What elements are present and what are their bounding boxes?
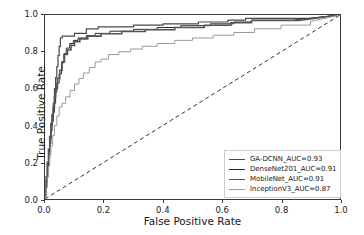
roc-curve-figure: 0.00.20.40.60.81.00.00.20.40.60.81.0 Fal… <box>0 0 364 235</box>
x-tick-mark <box>341 200 342 203</box>
x-tick-label: 0.4 <box>156 205 170 215</box>
y-tick-label: 1.0 <box>16 9 38 19</box>
legend-item-label: MobileNet_AUC=0.91 <box>250 175 324 183</box>
legend[interactable]: GA-DCNN_AUC=0.93DenseNet201_AUC=0.91Mobi… <box>224 150 341 198</box>
x-axis-label: False Positive Rate <box>44 215 341 227</box>
legend-item-mobilenet[interactable]: MobileNet_AUC=0.91 <box>229 174 336 184</box>
legend-item-label: InceptionV3_AUC=0.87 <box>250 185 331 193</box>
legend-item-ga-dcnn[interactable]: GA-DCNN_AUC=0.93 <box>229 154 336 164</box>
legend-item-label: GA-DCNN_AUC=0.93 <box>250 155 322 163</box>
x-tick-mark <box>222 200 223 203</box>
x-tick-label: 0.2 <box>97 205 111 215</box>
legend-item-label: DenseNet201_AUC=0.91 <box>250 165 337 173</box>
x-tick-label: 0.8 <box>275 205 289 215</box>
legend-line-swatch <box>229 179 245 180</box>
legend-line-swatch <box>229 189 245 190</box>
x-tick-label: 0.6 <box>215 205 229 215</box>
x-tick-mark <box>282 200 283 203</box>
x-tick-mark <box>103 200 104 203</box>
legend-item-inceptionv3[interactable]: InceptionV3_AUC=0.87 <box>229 184 336 194</box>
legend-item-densenet201[interactable]: DenseNet201_AUC=0.91 <box>229 164 336 174</box>
legend-line-swatch <box>229 169 245 170</box>
y-tick-mark <box>41 14 44 15</box>
legend-line-swatch <box>229 159 245 160</box>
x-tick-label: 1.0 <box>334 205 348 215</box>
y-axis-label: True Positive Rate <box>35 20 47 206</box>
x-tick-label: 0.0 <box>37 205 51 215</box>
x-tick-mark <box>163 200 164 203</box>
